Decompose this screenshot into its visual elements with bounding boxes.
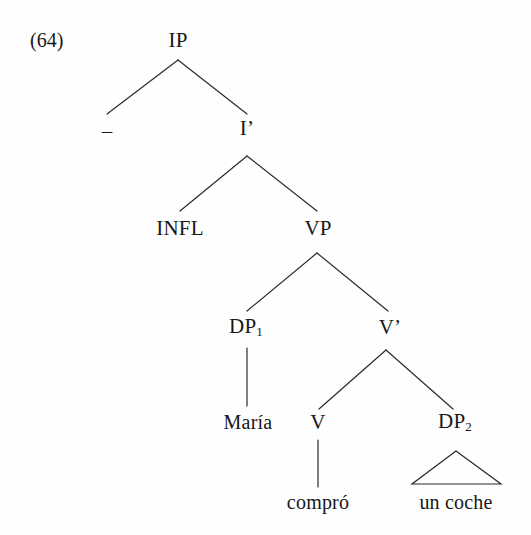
tree-node-label: V’ <box>379 315 402 339</box>
tree-node-label: VP <box>304 216 331 240</box>
tree-node-dp2: DP2 <box>438 411 472 433</box>
tree-node-ip: IP <box>168 30 187 51</box>
tree-node-spec: – <box>102 121 113 142</box>
tree-node-ibar: I’ <box>240 118 254 139</box>
tree-node-label: INFL <box>156 216 203 240</box>
tree-branch-vbar-to-v <box>319 350 386 409</box>
tree-node-label: V <box>310 410 325 434</box>
tree-node-label: IP <box>168 28 187 52</box>
tree-node-infl: INFL <box>156 218 203 239</box>
tree-node-v: V <box>310 412 325 433</box>
syntax-tree-figure: (64) IP–I’INFLVPDP1V’MaríaVDP2compróun c… <box>0 0 531 535</box>
tree-branch-vbar-to-dp2 <box>386 350 453 409</box>
tree-branch-vp-to-dp1 <box>247 253 317 311</box>
tree-branch-vp-to-vbar <box>317 253 388 311</box>
tree-node-label: un coche <box>419 491 492 513</box>
tree-node-compro: compró <box>287 492 349 512</box>
tree-node-maria: María <box>224 412 273 432</box>
tree-branch-ip-to-spec <box>107 60 178 114</box>
tree-branch-ibar-to-infl <box>180 156 247 211</box>
constituent-triangle-dp2 <box>412 451 501 484</box>
tree-node-uncoche: un coche <box>419 492 492 512</box>
tree-node-index-subscript: 2 <box>465 419 472 434</box>
tree-node-label: I’ <box>240 116 254 140</box>
tree-node-label: – <box>102 119 113 143</box>
tree-edge-layer <box>0 0 531 535</box>
tree-node-label: María <box>224 411 273 433</box>
tree-node-label: compró <box>287 491 349 513</box>
tree-node-vp: VP <box>304 218 331 239</box>
tree-node-label: DP <box>438 409 465 433</box>
tree-node-vbar: V’ <box>379 317 402 338</box>
tree-node-label: DP <box>229 314 256 338</box>
tree-branch-ibar-to-vp <box>247 156 317 211</box>
tree-node-dp1: DP1 <box>229 316 263 338</box>
tree-node-index-subscript: 1 <box>256 324 263 339</box>
tree-branch-ip-to-ibar <box>178 60 247 114</box>
